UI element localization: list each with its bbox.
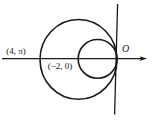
polar-circles-figure: (4, π) (−2, 0) O [0,0,154,120]
figure-canvas: (4, π) (−2, 0) O [0,0,154,120]
label-left-point: (4, π) [6,46,26,56]
label-origin: O [122,43,129,54]
label-center-point: (−2, 0) [48,61,73,71]
